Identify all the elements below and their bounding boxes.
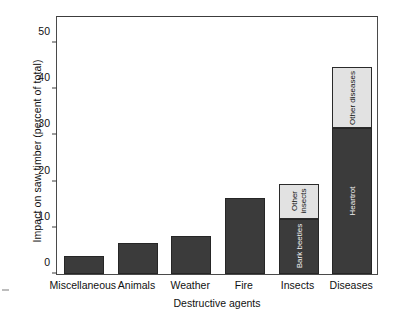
bar-segment[interactable]: [64, 256, 104, 274]
x-axis-tick-label: Miscellaneous: [50, 279, 117, 291]
plot-area: 01020304050 Bark beetlesOtherinsectsHear…: [56, 16, 378, 275]
bar-insects[interactable]: Bark beetlesOtherinsects: [279, 184, 319, 274]
bar-miscellaneous[interactable]: [64, 256, 104, 274]
bar-segment-label: Bark beetles: [294, 224, 303, 268]
x-axis-title: Destructive agents: [56, 297, 378, 309]
y-axis-tick-label: 0: [44, 256, 50, 268]
y-axis-tick-mark: [52, 88, 57, 89]
chart-figure: Impact on saw timber (percent of total) …: [0, 0, 397, 322]
y-axis-tick-mark: [52, 134, 57, 135]
bar-segment[interactable]: Bark beetles: [279, 219, 319, 275]
y-axis-tick-label: 30: [38, 117, 50, 129]
y-axis-tick-label: 50: [38, 25, 50, 37]
bar-segment[interactable]: [118, 243, 158, 274]
bar-segment[interactable]: Other diseases: [332, 67, 372, 128]
scan-artifact-mark: [2, 289, 9, 291]
y-axis-tick-label: 20: [38, 164, 50, 176]
bar-segment[interactable]: [225, 198, 265, 274]
bar-segment-label: Otherinsects: [290, 189, 308, 214]
bar-animals[interactable]: [118, 243, 158, 274]
bar-segment[interactable]: [171, 236, 211, 274]
bar-segment-label: Other diseases: [348, 71, 357, 125]
x-axis-tick-label: Insects: [281, 279, 314, 291]
bar-weather[interactable]: [171, 236, 211, 274]
x-axis-tick-label: Animals: [118, 279, 155, 291]
y-axis-tick-label: 40: [38, 71, 50, 83]
bar-segment[interactable]: Heartrot: [332, 128, 372, 274]
bar-diseases[interactable]: HeartrotOther diseases: [332, 67, 372, 274]
x-axis-tick-label: Diseases: [330, 279, 373, 291]
y-axis-tick-mark: [52, 180, 57, 181]
bar-segment[interactable]: Otherinsects: [279, 184, 319, 218]
bar-segment-label: Heartrot: [348, 186, 357, 215]
y-axis-tick-mark: [52, 226, 57, 227]
y-axis-tick-mark: [52, 41, 57, 42]
y-axis-tick-label: 10: [38, 210, 50, 222]
bar-fire[interactable]: [225, 198, 265, 274]
x-axis-tick-label: Weather: [170, 279, 210, 291]
x-axis-tick-label: Fire: [235, 279, 253, 291]
y-axis-tick-mark: [52, 273, 57, 274]
